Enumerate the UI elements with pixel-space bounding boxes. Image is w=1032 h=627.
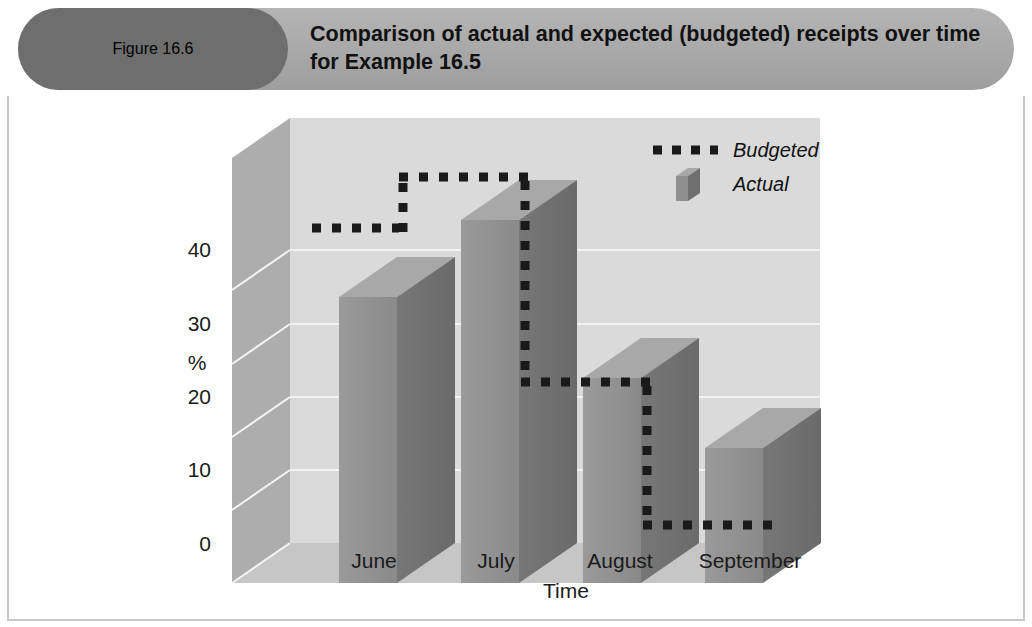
- legend-label-actual: Actual: [732, 173, 789, 195]
- x-axis-title: Time: [543, 579, 589, 602]
- bar-august: [583, 338, 699, 583]
- y-tick-30: 30: [188, 312, 211, 335]
- chart-left-wall: [232, 118, 290, 583]
- y-tick-10: 10: [188, 458, 211, 481]
- bar-july: [461, 180, 577, 583]
- x-tick-june: June: [351, 549, 397, 572]
- page-frame-bottom-rule: [7, 619, 1025, 621]
- bar-june-front: [339, 297, 397, 583]
- chart-figure: 40 30 20 10 0 %: [0, 96, 1032, 616]
- x-tick-july: July: [477, 549, 515, 572]
- bar-august-side: [641, 338, 699, 583]
- bar-june-side: [397, 257, 455, 583]
- y-axis-tick-labels: 40 30 20 10 0: [188, 238, 211, 555]
- figure-header-band: Figure 16.6 Comparison of actual and exp…: [18, 8, 1014, 90]
- y-tick-0: 0: [199, 532, 211, 555]
- y-axis-title: %: [188, 351, 207, 374]
- chart-canvas: 40 30 20 10 0 %: [0, 96, 1032, 616]
- x-tick-august: August: [587, 549, 653, 572]
- bar-june: [339, 257, 455, 583]
- bar-july-front: [461, 220, 519, 583]
- figure-title: Comparison of actual and expected (budge…: [310, 21, 1000, 76]
- figure-number-badge: Figure 16.6: [18, 8, 288, 90]
- legend-label-budgeted: Budgeted: [733, 139, 820, 161]
- figure-number-label: Figure 16.6: [113, 40, 194, 58]
- x-tick-september: September: [699, 549, 802, 572]
- y-tick-40: 40: [188, 238, 211, 261]
- y-tick-20: 20: [188, 385, 211, 408]
